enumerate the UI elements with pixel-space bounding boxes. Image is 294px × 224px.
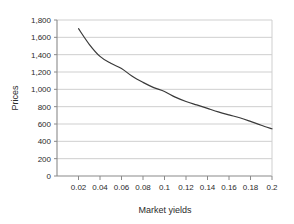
x-tick-label: 0.2 — [266, 183, 278, 192]
y-tick-label: 0 — [47, 172, 52, 181]
x-tick-label: 0.14 — [200, 183, 216, 192]
x-tick-label: 0.06 — [114, 183, 130, 192]
x-tick-label: 0.18 — [243, 183, 259, 192]
y-tick-label: 1,200 — [31, 68, 52, 77]
x-tick-label: 0.16 — [221, 183, 237, 192]
y-axis-title: Prices — [10, 85, 20, 111]
y-tick-label: 1,400 — [31, 51, 52, 60]
y-tick-label: 1,600 — [31, 33, 52, 42]
x-tick-label: 0.1 — [159, 183, 171, 192]
y-tick-label: 400 — [38, 137, 52, 146]
x-tick-label: 0.02 — [71, 183, 87, 192]
y-tick-label: 1,000 — [31, 85, 52, 94]
x-axis-title: Market yields — [138, 205, 192, 215]
price-yield-chart: 02004006008001,0001,2001,4001,6001,800 0… — [0, 0, 294, 224]
x-tick-label: 0.04 — [92, 183, 108, 192]
y-tick-label: 200 — [38, 155, 52, 164]
y-tick-label: 800 — [38, 103, 52, 112]
y-tick-label: 600 — [38, 120, 52, 129]
x-tick-label: 0.12 — [178, 183, 194, 192]
x-tick-label: 0.08 — [135, 183, 151, 192]
chart-figure: 02004006008001,0001,2001,4001,6001,800 0… — [0, 0, 294, 224]
y-tick-label: 1,800 — [31, 16, 52, 25]
